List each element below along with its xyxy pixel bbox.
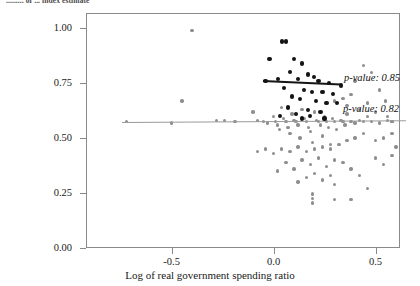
- data-point-grey: [378, 88, 381, 91]
- data-point-grey: [333, 198, 336, 201]
- data-point-grey: [333, 158, 336, 161]
- data-point-dark: [331, 92, 335, 96]
- data-point-dark: [284, 39, 288, 43]
- data-point-grey: [313, 172, 316, 175]
- data-point-grey: [390, 132, 393, 135]
- data-point-dark: [267, 57, 271, 61]
- data-point-grey: [358, 174, 361, 177]
- data-point-grey: [374, 139, 377, 142]
- x-axis-title: Log of real government spending ratio: [0, 269, 420, 281]
- y-tick-label: 1.00: [26, 23, 72, 33]
- data-point-grey: [382, 163, 385, 166]
- data-point-grey: [300, 158, 303, 161]
- y-tick-label: 0.00: [26, 243, 72, 253]
- y-tick-label: 0.25: [26, 188, 72, 198]
- data-point-grey: [337, 143, 340, 146]
- data-point-grey: [305, 150, 308, 153]
- data-point-grey: [386, 115, 389, 118]
- data-point-grey: [329, 143, 332, 146]
- data-point-grey: [329, 174, 332, 177]
- data-point-grey: [382, 136, 385, 139]
- data-point-grey: [349, 93, 352, 96]
- data-point-grey: [353, 136, 356, 139]
- data-point-grey: [296, 145, 299, 148]
- data-point-grey: [394, 145, 397, 148]
- data-point-grey: [325, 165, 328, 168]
- data-point-grey: [256, 150, 259, 153]
- data-point-dark: [282, 86, 286, 90]
- x-tick-mark: [376, 248, 377, 254]
- data-point-dark: [300, 61, 304, 65]
- data-point-grey: [335, 128, 338, 131]
- data-point-grey: [288, 150, 291, 153]
- y-tick-label: 0.75: [26, 78, 72, 88]
- data-point-dark: [302, 88, 306, 92]
- data-point-dark: [318, 110, 322, 114]
- data-point-dark: [306, 108, 310, 112]
- data-point-dark: [312, 75, 316, 79]
- chart-root: ......... of ... index estimate 0.000.25…: [0, 0, 420, 286]
- data-point-dark: [310, 90, 314, 94]
- data-point-grey: [341, 161, 344, 164]
- data-point-grey: [313, 110, 316, 113]
- pvalue-label-dark: p-value: 0.85: [344, 72, 400, 83]
- data-point-grey: [280, 147, 283, 150]
- x-tick-mark: [172, 248, 173, 254]
- data-point-dark: [290, 94, 294, 98]
- plot-area: [86, 13, 400, 248]
- data-point-grey: [313, 147, 316, 150]
- data-point-grey: [264, 147, 267, 150]
- data-point-grey: [345, 139, 348, 142]
- data-point-grey: [272, 152, 275, 155]
- data-point-grey: [362, 64, 365, 67]
- data-point-grey: [307, 126, 310, 129]
- data-point-grey: [309, 163, 312, 166]
- data-point-dark: [294, 112, 298, 116]
- data-point-grey: [329, 147, 332, 150]
- data-point-grey: [362, 132, 365, 135]
- data-point-grey: [280, 106, 283, 109]
- data-point-grey: [349, 167, 352, 170]
- data-point-grey: [321, 145, 324, 148]
- data-point-dark: [288, 70, 292, 74]
- data-point-grey: [286, 126, 289, 129]
- data-point-grey: [288, 132, 291, 135]
- data-point-grey: [180, 99, 183, 102]
- data-point-grey: [311, 141, 314, 144]
- data-point-grey: [272, 115, 275, 118]
- data-point-grey: [321, 178, 324, 181]
- data-point-grey: [251, 110, 254, 113]
- data-point-dark: [300, 116, 304, 120]
- data-point-dark: [286, 105, 290, 109]
- data-point-grey: [284, 161, 287, 164]
- data-point-grey: [300, 108, 303, 111]
- data-point-grey: [349, 198, 352, 201]
- data-point-dark: [324, 101, 328, 105]
- data-point-dark: [292, 57, 296, 61]
- data-point-dark: [322, 116, 326, 120]
- data-point-dark: [314, 99, 318, 103]
- data-point-dark: [320, 90, 324, 94]
- data-point-grey: [311, 192, 314, 195]
- data-point-dark: [296, 77, 300, 81]
- data-point-grey: [366, 187, 369, 190]
- data-point-grey: [374, 156, 377, 159]
- data-point-dark: [335, 101, 339, 105]
- data-point-grey: [390, 154, 393, 157]
- x-tick-mark: [274, 248, 275, 254]
- data-point-grey: [309, 130, 312, 133]
- data-point-grey: [190, 29, 193, 32]
- data-point-grey: [333, 183, 336, 186]
- y-tick-mark: [80, 248, 86, 249]
- y-tick-label: 0.50: [26, 133, 72, 143]
- data-point-grey: [296, 123, 299, 126]
- data-point-dark: [298, 97, 302, 101]
- data-point-grey: [319, 123, 322, 126]
- data-point-grey: [292, 167, 295, 170]
- data-point-grey: [296, 180, 299, 183]
- data-point-grey: [311, 197, 314, 200]
- data-point-grey: [278, 128, 281, 131]
- data-point-grey: [317, 156, 320, 159]
- data-point-grey: [298, 136, 301, 139]
- data-point-grey: [276, 169, 279, 172]
